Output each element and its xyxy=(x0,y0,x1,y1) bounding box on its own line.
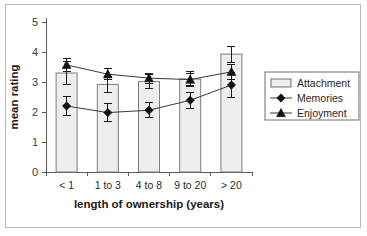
y-axis-tick-label: 4 xyxy=(32,46,38,58)
x-axis-category-label: 4 to 8 xyxy=(136,179,162,191)
legend-item[interactable]: Memories xyxy=(270,92,343,104)
x-axis-category-label: > 20 xyxy=(221,179,242,191)
bar-attachment xyxy=(56,73,77,172)
x-axis-category-label: 9 to 20 xyxy=(174,179,206,191)
x-axis-category-label: 1 to 3 xyxy=(95,179,121,191)
y-axis-tick-label: 5 xyxy=(32,16,38,28)
chart-figure: 012345< 11 to 34 to 89 to 20> 20length o… xyxy=(0,0,367,236)
legend-label: Memories xyxy=(297,92,343,104)
y-axis-title: mean rating xyxy=(8,64,20,129)
bar-line-chart: 012345< 11 to 34 to 89 to 20> 20length o… xyxy=(0,0,367,236)
x-axis-title: length of ownership (years) xyxy=(74,198,224,210)
bar-attachment xyxy=(97,84,118,172)
y-axis-tick-label: 0 xyxy=(32,166,38,178)
legend-label: Enjoyment xyxy=(297,107,347,119)
y-axis-tick-label: 1 xyxy=(32,136,38,148)
legend-label: Attachment xyxy=(297,77,350,89)
bar-attachment xyxy=(139,81,160,172)
y-axis-tick-label: 3 xyxy=(32,76,38,88)
bar-swatch-icon xyxy=(271,79,291,87)
legend-item[interactable]: Attachment xyxy=(271,77,350,89)
x-axis-category-label: < 1 xyxy=(59,179,74,191)
y-axis-tick-label: 2 xyxy=(32,106,38,118)
